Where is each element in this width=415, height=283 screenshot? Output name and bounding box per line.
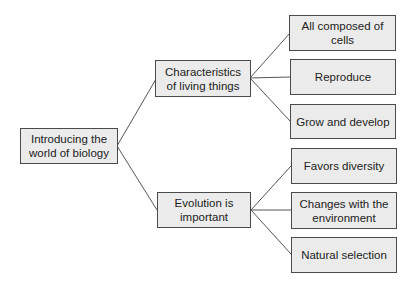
branch-node-label: Characteristics of living things	[159, 65, 247, 93]
leaf-node-selection: Natural selection	[291, 237, 397, 273]
branch-node-label: Evolution is important	[161, 196, 247, 224]
leaf-node-grow: Grow and develop	[290, 104, 396, 139]
root-node: Introducing the world of biology	[20, 128, 118, 164]
connector-root-to-evolution	[117, 146, 157, 210]
root-node-label: Introducing the world of biology	[24, 132, 114, 160]
connector-characteristics-to-grow	[250, 78, 290, 121]
connector-characteristics-to-reproduce	[250, 77, 290, 78]
leaf-node-label: All composed of cells	[293, 19, 392, 47]
leaf-node-label: Reproduce	[315, 70, 371, 84]
connector-characteristics-to-cells	[250, 33, 290, 78]
leaf-node-label: Favors diversity	[304, 159, 385, 173]
branch-node-characteristics: Characteristics of living things	[155, 60, 251, 97]
leaf-node-label: Natural selection	[301, 248, 387, 262]
leaf-node-reproduce: Reproduce	[290, 59, 396, 95]
leaf-node-environment: Changes with the environment	[291, 192, 397, 229]
connector-evolution-to-diversity	[251, 166, 291, 210]
leaf-node-label: Changes with the environment	[295, 197, 393, 225]
leaf-node-diversity: Favors diversity	[291, 148, 397, 184]
leaf-node-label: Grow and develop	[296, 115, 389, 129]
biology-concept-map: Introducing the world of biology Charact…	[0, 0, 415, 283]
connector-root-to-characteristics	[117, 79, 156, 146]
connector-evolution-to-selection	[251, 210, 291, 254]
leaf-node-cells: All composed of cells	[289, 15, 396, 51]
branch-node-evolution: Evolution is important	[157, 192, 251, 228]
